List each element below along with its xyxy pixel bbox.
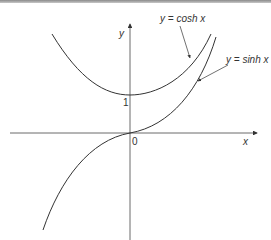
- cosh-curve: [52, 34, 211, 95]
- chart-canvas: [0, 0, 271, 240]
- sinh-pointer: [198, 65, 228, 81]
- origin-label: 0: [132, 137, 138, 147]
- cosh-equation-label: y = cosh x: [160, 14, 205, 24]
- x-axis-label: x: [243, 137, 248, 147]
- sinh-equation-label: y = sinh x: [226, 55, 269, 65]
- y-intercept-label: 1: [123, 98, 129, 108]
- sinh-equation-text: y = sinh x: [226, 54, 269, 65]
- cosh-equation-text: y = cosh x: [160, 13, 205, 24]
- y-axis-label: y: [119, 29, 124, 39]
- cosh-pointer: [180, 26, 190, 58]
